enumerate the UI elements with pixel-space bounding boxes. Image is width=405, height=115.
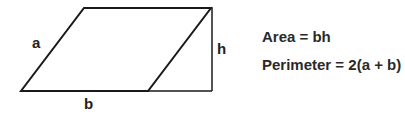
perimeter-formula: Perimeter = 2(a + b): [262, 56, 401, 73]
side-label-a: a: [32, 34, 41, 51]
height-label-h: h: [217, 40, 226, 57]
area-formula: Area = bh: [262, 28, 331, 45]
parallelogram-shape: [21, 8, 211, 91]
base-label-b: b: [84, 95, 93, 112]
